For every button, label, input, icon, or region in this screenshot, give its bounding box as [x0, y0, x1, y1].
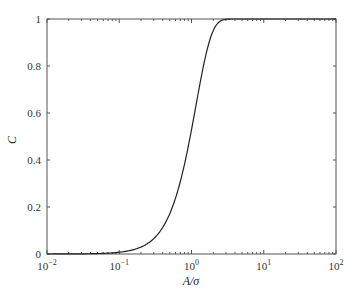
- y-tick-labels: 00.20.40.60.81: [27, 13, 41, 260]
- x-tick-label: 10−1: [109, 258, 129, 272]
- y-tick-label: 1: [36, 13, 42, 25]
- x-axis-label: A/σ: [182, 274, 201, 288]
- axis-ticks: [47, 19, 336, 254]
- y-tick-label: 0.6: [27, 107, 41, 119]
- x-tick-label: 10−2: [37, 258, 57, 272]
- x-tick-label: 102: [329, 258, 344, 272]
- y-tick-label: 0.4: [27, 154, 41, 166]
- x-tick-label: 101: [256, 258, 271, 272]
- y-tick-label: 0.8: [27, 60, 41, 72]
- data-curve: [47, 19, 336, 254]
- plot-frame: [47, 19, 336, 254]
- y-axis-label: C: [5, 135, 19, 144]
- chart: 00.20.40.60.81 10−210−1100101102 A/σ C: [0, 0, 358, 301]
- x-tick-label: 100: [184, 258, 199, 272]
- y-tick-label: 0: [36, 248, 42, 260]
- x-tick-labels: 10−210−1100101102: [37, 258, 343, 272]
- y-tick-label: 0.2: [27, 201, 41, 213]
